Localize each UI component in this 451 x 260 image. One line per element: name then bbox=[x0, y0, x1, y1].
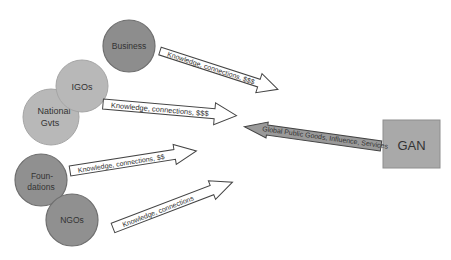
igos-label: IGOs bbox=[71, 82, 93, 92]
foundations-to-gan-arrow: Knowledge, connections, $$ bbox=[68, 141, 198, 181]
ngos-arrow-label: Knowledge, connections bbox=[121, 194, 195, 229]
igos-to-gan-arrow: Knowledge, connections, $$$ bbox=[102, 93, 237, 127]
stakeholder-diagram: Business National Gvts IGOs Foun- dation… bbox=[0, 0, 451, 260]
igos-arrow-label: Knowledge, connections, $$$ bbox=[111, 101, 210, 119]
foundations-arrow-label: Knowledge, connections, $$ bbox=[77, 153, 165, 175]
foundations-label-line1: Foun- bbox=[31, 171, 53, 181]
national-gvts-label-line1: National bbox=[37, 106, 70, 116]
business-to-gan-arrow: Knowledge, connections, $$$ bbox=[157, 41, 281, 98]
gan-label: GAN bbox=[397, 138, 425, 153]
igos-node: IGOs bbox=[56, 60, 108, 112]
foundations-label-line2: dations bbox=[27, 182, 54, 192]
ngos-node: NGOs bbox=[46, 194, 98, 246]
gan-node: GAN bbox=[383, 120, 440, 168]
business-node: Business bbox=[103, 20, 155, 72]
national-gvts-label-line2: Gvts bbox=[41, 118, 60, 128]
business-arrow-label: Knowledge, connections, $$$ bbox=[166, 50, 256, 86]
business-label: Business bbox=[112, 41, 147, 51]
ngos-label: NGOs bbox=[60, 215, 84, 225]
ngos-to-gan-arrow: Knowledge, connections bbox=[109, 173, 236, 238]
